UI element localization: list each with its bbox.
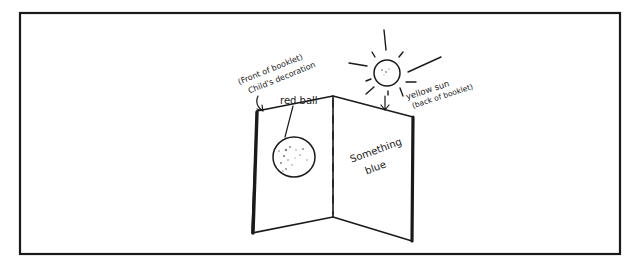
booklet-right-edge: [412, 117, 413, 241]
booklet-left-panel: [252, 96, 333, 233]
booklet-left-edge: [253, 112, 257, 233]
figure-frame: [20, 13, 620, 254]
front-label: (Front of booklet) Child's decoration: [237, 49, 317, 98]
inside-label-line1: Something: [348, 136, 403, 165]
inside-label: Something blue: [348, 136, 408, 180]
sun-pointer-arrow: [381, 96, 389, 110]
sun-label: yellow sun (back of booklet): [405, 72, 475, 112]
ball-label: red ball: [280, 95, 318, 106]
booklet-diagram: (Front of booklet) Child's decoration re…: [0, 0, 637, 266]
front-pointer-arrow: [257, 96, 263, 111]
red-ball: [273, 137, 315, 177]
ball-pointer-line: [285, 106, 293, 137]
inside-label-line2: blue: [363, 159, 387, 177]
